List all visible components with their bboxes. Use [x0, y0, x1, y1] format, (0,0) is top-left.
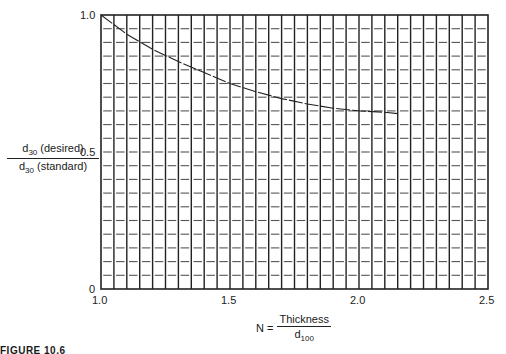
grid — [103, 15, 486, 289]
x-tick-2-0: 2.0 — [350, 294, 365, 306]
x-label-numerator: Thickness — [277, 313, 331, 327]
x-tick-1-0: 1.0 — [92, 294, 107, 306]
x-label-fraction: Thickness d100 — [277, 313, 331, 343]
x-tick-2-5: 2.5 — [479, 294, 494, 306]
x-axis-label: N = Thickness d100 — [256, 313, 331, 343]
data-curve — [101, 15, 398, 114]
y-label-numerator: d30 (desired) — [7, 142, 99, 159]
y-label-denominator: d30 (standard) — [3, 159, 103, 175]
x-label-prefix: N = — [256, 322, 273, 334]
x-tick-1-5: 1.5 — [221, 294, 236, 306]
y-axis-label: d30 (desired) d30 (standard) — [3, 142, 103, 175]
x-label-denominator: d100 — [294, 327, 313, 343]
figure-caption: FIGURE 10.6 — [0, 345, 66, 354]
y-tick-1-0: 1.0 — [80, 9, 95, 21]
chart-plot-area — [0, 0, 506, 354]
